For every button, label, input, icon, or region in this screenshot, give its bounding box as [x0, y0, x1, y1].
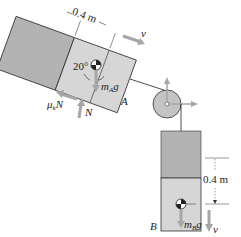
- velocity-b-arrow: [205, 210, 213, 232]
- block-a-width-label: 0.4 m: [71, 5, 99, 25]
- block-b-label: B: [150, 220, 157, 232]
- friction-label: μkN: [46, 98, 64, 112]
- pulley-system-diagram: 0.4 m v 20° mAg A: [0, 0, 241, 237]
- block-b-displacement-label: 0.4 m: [203, 173, 229, 185]
- dim-arrow-right: [99, 22, 106, 25]
- angle-label: 20°: [73, 60, 88, 72]
- normal-force-arrow: [77, 98, 85, 118]
- center-of-mass-a-icon: [91, 60, 101, 70]
- block-b-previous-position: [161, 131, 201, 178]
- center-of-mass-b-icon: [176, 199, 186, 209]
- block-a-label: A: [120, 95, 128, 107]
- velocity-b-label: v: [213, 223, 218, 235]
- dim-b-arrowhead: [213, 200, 217, 204]
- velocity-a-label: v: [141, 27, 146, 39]
- normal-force-label: N: [84, 106, 93, 118]
- diagram-canvas: 0.4 m v 20° mAg A: [0, 0, 241, 237]
